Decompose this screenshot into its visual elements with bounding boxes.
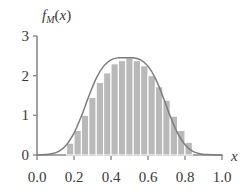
x-tick-label: 0.6 [139,169,158,185]
x-tick-label: 0.2 [65,169,84,185]
y-axis: 0123 [22,28,38,163]
histogram-bar [163,100,170,155]
histogram-bar [141,66,148,155]
histogram-bar [118,61,125,155]
histogram-bar [74,130,81,155]
y-tick-label: 3 [22,28,30,44]
y-axis-title-text: fM(x) [42,7,71,25]
figure-container: 0123 0.00.20.40.60.81.0 fM(x) x [0,0,252,194]
histogram-bar [96,82,103,155]
histogram-bar [148,76,155,155]
x-tick-label: 1.0 [213,169,232,185]
histogram-bar [111,64,118,155]
histogram-bar [104,73,111,155]
histogram-bar [133,61,140,155]
histogram-bar [67,143,74,155]
y-axis-title-paren-close: ) [66,7,71,24]
histogram-bar [89,97,96,155]
y-tick-label: 2 [22,68,30,84]
x-tick-label: 0.4 [102,169,121,185]
y-tick-label: 0 [22,147,30,163]
x-axis-tick-labels: 0.00.20.40.60.81.0 [28,169,232,185]
histogram-bar [155,87,162,155]
x-axis: 0.00.20.40.60.81.0 [28,155,232,185]
density-histogram-chart: 0123 0.00.20.40.60.81.0 fM(x) x [0,0,252,194]
y-axis-title: fM(x) [42,7,71,25]
x-tick-label: 0.0 [28,169,47,185]
x-axis-title: x [230,148,238,164]
histogram-bar [81,115,88,155]
x-tick-label: 0.8 [176,169,195,185]
y-tick-label: 1 [22,107,30,123]
histogram-bar [126,58,133,155]
y-axis-tick-labels: 0123 [22,28,30,163]
histogram-bar [170,116,177,155]
